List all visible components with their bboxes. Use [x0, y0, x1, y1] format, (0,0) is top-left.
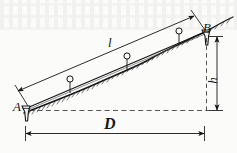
dimension-line-slope-length [15, 10, 205, 106]
survey-stake-a [22, 106, 30, 121]
label-point-a: A [13, 100, 21, 113]
label-point-b: B [203, 21, 211, 34]
plumb-bob-marker-2 [124, 53, 130, 70]
measuring-tape-line [27, 32, 205, 110]
label-height-difference: h [206, 77, 219, 84]
figure-linework [0, 0, 237, 153]
dimension-line-height [209, 37, 223, 111]
label-horizontal-distance: D [104, 116, 116, 132]
label-slope-length: l [108, 36, 112, 49]
slope-measurement-figure: A B l D h [0, 0, 237, 153]
